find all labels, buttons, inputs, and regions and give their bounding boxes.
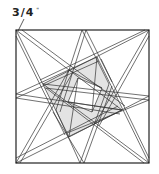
quilt-block-diagram [0,0,159,174]
label-leader-line [18,19,24,31]
